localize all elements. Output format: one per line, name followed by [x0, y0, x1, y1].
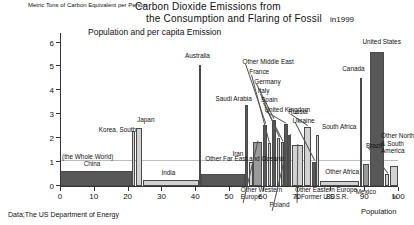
- x-tick: [94, 187, 95, 191]
- x-tick: [195, 187, 196, 191]
- y-tick-label: 5: [38, 62, 54, 71]
- x-axis-title: Population: [361, 208, 396, 216]
- x-tick-label: 30: [157, 192, 166, 201]
- x-tick: [60, 187, 61, 191]
- x-axis-unit: %: [392, 194, 397, 200]
- y-tick: [56, 185, 60, 186]
- y-tick: [56, 161, 60, 162]
- x-tick: [398, 187, 399, 191]
- y-tick-label: 1: [38, 158, 54, 167]
- chart-title-line1: Carbon Dioxide Emissions from: [135, 2, 281, 13]
- x-tick: [161, 187, 162, 191]
- x-tick: [364, 187, 365, 191]
- y-tick-label: 4: [38, 86, 54, 95]
- x-tick-label: 20: [123, 192, 132, 201]
- chart-title-line2: the Consumption and Flaring of Fossil: [146, 14, 322, 25]
- y-tick: [56, 137, 60, 138]
- x-tick: [263, 187, 264, 191]
- x-tick-label: 50: [225, 192, 234, 201]
- x-axis: 0102030405060708090100: [60, 187, 398, 207]
- x-tick-label: 0: [58, 192, 62, 201]
- y-tick-label: 0: [38, 182, 54, 191]
- x-tick-label: 60: [258, 192, 267, 201]
- x-tick-label: 10: [89, 192, 98, 201]
- x-tick: [297, 187, 298, 191]
- y-axis-title: Metric Tons of Carbon Equivalent per Per…: [28, 2, 147, 10]
- x-tick-label: 90: [360, 192, 369, 201]
- x-tick: [128, 187, 129, 191]
- y-tick: [56, 42, 60, 43]
- chart-year: in1999: [330, 16, 354, 24]
- y-tick-label: 2: [38, 134, 54, 143]
- y-tick-label: 6: [38, 39, 54, 48]
- x-tick-label: 80: [326, 192, 335, 201]
- x-tick-label: 70: [292, 192, 301, 201]
- x-tick: [229, 187, 230, 191]
- x-tick-label: 40: [191, 192, 200, 201]
- y-tick: [56, 113, 60, 114]
- y-tick-label: 3: [38, 110, 54, 119]
- x-tick: [330, 187, 331, 191]
- source-note: Data;The US Department of Energy: [8, 211, 119, 218]
- y-axis: 0123456: [60, 33, 398, 186]
- y-tick: [56, 89, 60, 90]
- y-tick: [56, 65, 60, 66]
